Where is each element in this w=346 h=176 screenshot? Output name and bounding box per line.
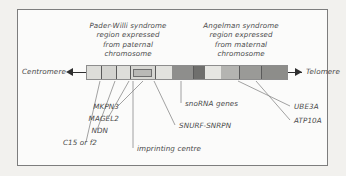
chromosome-segment	[261, 66, 287, 79]
gene-label-atp10a: ATP10A	[294, 117, 322, 125]
angelman-caption: Angelman syndrome region expressed from …	[181, 21, 301, 58]
chromosome-segment	[155, 66, 172, 79]
gene-label-snorna: snoRNA genes	[185, 100, 238, 108]
segment-boundary-tick	[101, 66, 102, 79]
segment-boundary-tick	[116, 66, 117, 79]
telomere-arrow-icon	[295, 68, 302, 76]
chromosome-segment	[221, 66, 239, 79]
caption-line: chromosome	[68, 49, 188, 58]
prader-willi-caption: Pader-Willi syndrome region expressed fr…	[68, 21, 188, 58]
centromere-arrow-shaft	[72, 72, 86, 73]
chromosome-segment	[239, 66, 261, 79]
gene-label-magel2: MAGEL2	[14, 115, 119, 123]
gene-label-ndn: NDN	[24, 127, 108, 135]
segment-boundary-tick	[239, 66, 240, 79]
telomere-label: Telomere	[306, 68, 340, 76]
chromosome-segment	[205, 66, 221, 79]
segment-boundary-tick	[261, 66, 262, 79]
caption-line: region expressed	[181, 30, 301, 39]
centromere-arrow-icon	[66, 68, 73, 76]
gene-label-imprinting-centre: imprinting centre	[137, 145, 201, 153]
gene-label-c15orf2: C15 or f2	[14, 139, 97, 147]
segment-boundary-tick	[130, 66, 131, 79]
centromere-label: Centromere	[22, 68, 66, 76]
chromosome-segment	[87, 66, 101, 79]
caption-line: chromosome	[181, 49, 301, 58]
chromosome-segment	[116, 66, 130, 79]
caption-line: region expressed	[68, 30, 188, 39]
segment-boundary-tick	[155, 66, 156, 79]
chromosome-segment	[193, 66, 205, 79]
segment-boundary-tick	[193, 66, 194, 79]
chromosome-segment	[101, 66, 116, 79]
caption-line: from maternal	[181, 40, 301, 49]
diagram-canvas: Pader-Willi syndrome region expressed fr…	[0, 0, 346, 176]
gene-label-ube3a: UBE3A	[294, 103, 319, 111]
chromosome-bar	[86, 65, 288, 80]
caption-line: from paternal	[68, 40, 188, 49]
gene-label-mkpn3: MKPN3	[24, 103, 119, 111]
imprinting-centre-box	[133, 69, 152, 77]
caption-line: Angelman syndrome	[181, 21, 301, 30]
caption-line: Pader-Willi syndrome	[68, 21, 188, 30]
chromosome-segment	[172, 66, 193, 79]
gene-label-snurf-snrpn: SNURF-SNRPN	[179, 122, 231, 130]
